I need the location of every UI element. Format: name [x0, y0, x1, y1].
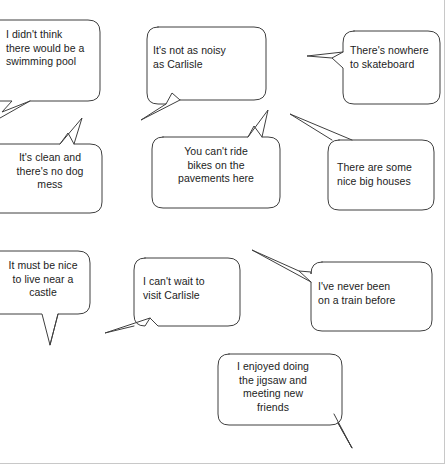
bubble-tail-bikes-pavements [248, 110, 268, 137]
bubble-tail-never-been-train [252, 250, 311, 282]
bubble-outline-bikes-pavements [152, 126, 280, 208]
bubble-tail-not-as-noisy [141, 100, 180, 120]
bubble-outline-visit-carlisle [134, 258, 240, 326]
bubble-outlines-layer [0, 0, 445, 464]
bubble-tail-clean-dog-mess [60, 118, 82, 144]
bubble-tail-nice-big-houses [290, 114, 352, 140]
bubble-outline-jigsaw-friends [218, 354, 342, 425]
speech-bubble-page: I didn't think there would be a swimming… [0, 0, 445, 464]
bubble-outline-swimming-pool [0, 20, 100, 112]
bubble-outline-not-as-noisy [147, 27, 266, 104]
bubble-tail-jigsaw-friends-2 [338, 423, 352, 448]
bubble-outline-clean-dog-mess [0, 133, 102, 213]
bubble-outline-nowhere-skateboard [332, 31, 440, 104]
bubble-outline-live-near-castle [0, 251, 90, 345]
bubble-tail-live-near-castle [50, 314, 58, 345]
bubble-outline-nice-big-houses [328, 140, 434, 210]
bubble-outline-never-been-train [299, 262, 432, 331]
